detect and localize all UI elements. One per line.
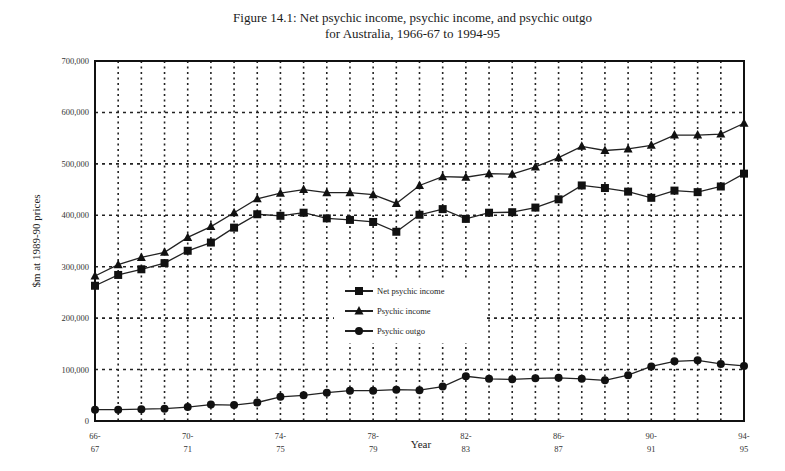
legend-item: Net psychic income	[345, 286, 445, 296]
circle-marker	[555, 374, 563, 382]
triangle-marker	[577, 141, 586, 150]
square-marker	[462, 215, 470, 223]
square-marker	[624, 188, 632, 196]
plot-frame	[95, 61, 744, 421]
circle-marker	[184, 403, 192, 411]
triangle-marker	[485, 169, 494, 178]
circle-marker	[462, 372, 470, 380]
x-tick-label: 95	[740, 444, 749, 454]
line-chart: 0100,000200,000300,000400,000500,000600,…	[0, 0, 785, 471]
y-axis-ticks: 0100,000200,000300,000400,000500,000600,…	[61, 56, 89, 426]
square-marker	[694, 188, 702, 196]
x-tick-label: 70-	[182, 431, 194, 441]
square-marker	[114, 271, 122, 279]
y-tick-label: 500,000	[61, 159, 89, 169]
triangle-marker	[438, 172, 447, 181]
square-marker	[508, 208, 516, 216]
circle-marker	[717, 360, 725, 368]
x-tick-label: 67	[91, 444, 100, 454]
y-tick-label: 300,000	[61, 262, 89, 272]
circle-marker	[601, 376, 609, 384]
triangle-marker	[160, 247, 169, 256]
circle-marker	[323, 389, 331, 397]
triangle-marker	[230, 208, 239, 217]
circle-marker	[253, 398, 261, 406]
square-marker	[230, 224, 238, 232]
square-marker	[392, 228, 400, 236]
circle-marker	[207, 401, 215, 409]
x-tick-label: 83	[462, 444, 471, 454]
circle-marker	[670, 357, 678, 365]
circle-marker	[647, 362, 655, 370]
legend-label: Psychic income	[377, 306, 431, 316]
circle-marker	[161, 405, 169, 413]
circle-marker	[300, 391, 308, 399]
square-icon	[355, 287, 363, 295]
triangle-marker	[299, 185, 308, 194]
x-tick-label: 82-	[460, 431, 472, 441]
circle-marker	[230, 401, 238, 409]
y-tick-label: 100,000	[61, 365, 89, 375]
triangle-marker	[670, 130, 679, 139]
circle-marker	[346, 387, 354, 395]
square-marker	[184, 247, 192, 255]
square-marker	[670, 187, 678, 195]
square-marker	[578, 181, 586, 189]
square-marker	[323, 214, 331, 222]
y-tick-label: 600,000	[61, 107, 89, 117]
square-marker	[253, 210, 261, 218]
x-tick-label: 87	[554, 444, 563, 454]
gridlines	[95, 61, 744, 421]
square-marker	[346, 216, 354, 224]
square-marker	[555, 195, 563, 203]
square-marker	[207, 239, 215, 247]
x-tick-label: 74-	[275, 431, 287, 441]
x-tick-label: 78-	[367, 431, 379, 441]
square-marker	[439, 205, 447, 213]
square-marker	[161, 259, 169, 267]
square-marker	[485, 209, 493, 217]
circle-marker	[114, 406, 122, 414]
x-axis-label: Year	[411, 438, 432, 450]
x-tick-label: 66-	[89, 431, 101, 441]
y-tick-label: 700,000	[61, 56, 89, 66]
triangle-marker	[345, 188, 354, 197]
circle-marker	[578, 375, 586, 383]
y-tick-label: 400,000	[61, 210, 89, 220]
circle-marker	[694, 356, 702, 364]
square-marker	[369, 218, 377, 226]
triangle-marker	[183, 232, 192, 241]
circle-marker	[392, 386, 400, 394]
triangle-marker	[716, 129, 725, 138]
circle-marker	[276, 393, 284, 401]
square-marker	[601, 184, 609, 192]
square-marker	[137, 265, 145, 273]
circle-marker	[369, 387, 377, 395]
square-marker	[717, 182, 725, 190]
circle-icon	[355, 327, 363, 335]
square-marker	[531, 204, 539, 212]
legend: Net psychic incomePsychic incomePsychic …	[334, 281, 484, 343]
triangle-marker	[554, 153, 563, 162]
legend-label: Psychic outgo	[377, 326, 425, 336]
circle-marker	[416, 386, 424, 394]
circle-marker	[531, 374, 539, 382]
x-tick-label: 79	[369, 444, 378, 454]
circle-marker	[439, 383, 447, 391]
x-tick-label: 71	[183, 444, 192, 454]
circle-marker	[137, 405, 145, 413]
square-marker	[647, 194, 655, 202]
circle-marker	[485, 375, 493, 383]
series-line	[95, 174, 744, 286]
x-tick-label: 91	[647, 444, 656, 454]
legend-label: Net psychic income	[377, 286, 445, 296]
x-tick-label: 75	[276, 444, 285, 454]
triangle-marker	[206, 222, 215, 231]
x-tick-label: 86-	[553, 431, 565, 441]
square-marker	[416, 211, 424, 219]
square-marker	[276, 212, 284, 220]
circle-marker	[624, 371, 632, 379]
x-tick-label: 94-	[738, 431, 750, 441]
y-tick-label: 200,000	[61, 313, 89, 323]
square-marker	[300, 209, 308, 217]
